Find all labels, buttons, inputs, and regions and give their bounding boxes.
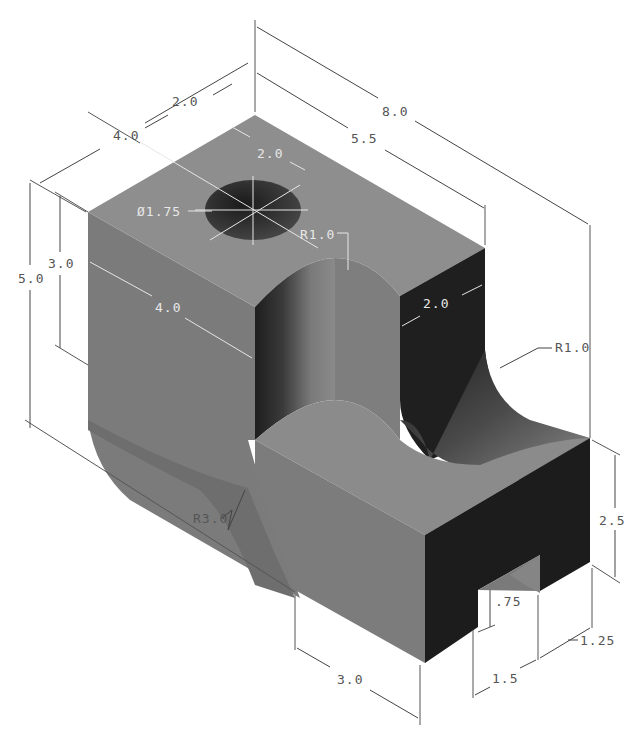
dim-notch-width: 1.5 (492, 671, 518, 686)
dim-hole-offset-width: 2.0 (172, 94, 198, 109)
dim-front-face-width: 4.0 (155, 300, 181, 315)
dim-notch-depth: .75 (495, 594, 521, 609)
part-body (88, 115, 590, 663)
dim-hole-offset-length: 2.0 (257, 146, 283, 161)
isometric-part-drawing: 2.0 Ø1.75 R1.0 4.0 2.0 8.0 5.5 (0, 0, 640, 736)
dim-overall-height: 5.0 (18, 271, 44, 286)
dim-upper-block-length: 5.5 (351, 131, 377, 146)
dim-hole-diameter: Ø1.75 (137, 204, 181, 219)
dim-base-width: 3.0 (337, 672, 363, 687)
dim-upper-fillet-radius: R1.0 (300, 227, 335, 242)
dim-notch-offset: 1.25 (580, 633, 615, 648)
dim-side-fillet-radius: R1.0 (555, 340, 590, 355)
dim-slot-width: 2.0 (423, 296, 449, 311)
dim-step-height: 2.5 (599, 513, 625, 528)
dim-overall-length: 8.0 (382, 104, 408, 119)
dim-base-arc-radius: R3.0 (193, 511, 228, 526)
dim-upper-block-height: 3.0 (48, 256, 74, 271)
dim-width-top: 4.0 (113, 128, 139, 143)
